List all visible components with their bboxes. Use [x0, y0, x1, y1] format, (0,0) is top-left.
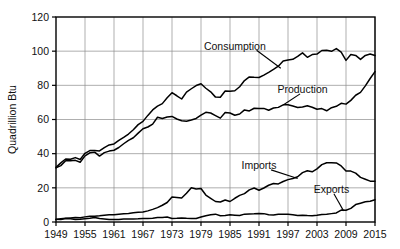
x-tick-label: 1967 [131, 228, 155, 240]
leader-line-imports [271, 170, 298, 179]
x-tick-label: 2009 [334, 228, 358, 240]
y-tick-label: 0 [43, 216, 49, 228]
series-annotation-production: Production [277, 83, 327, 95]
x-tick-label: 1961 [102, 228, 126, 240]
series-line-consumption [56, 49, 375, 168]
series-annotation-consumption: Consumption [204, 40, 266, 52]
chart-canvas: 0204060801001201949195519611967197319791… [0, 0, 400, 249]
x-tick-label: 1979 [189, 228, 213, 240]
y-axis-title: Quadrillion Btu [6, 85, 18, 154]
x-tick-label: 1985 [218, 228, 242, 240]
x-tick-label: 1997 [276, 228, 300, 240]
y-tick-label: 120 [31, 11, 49, 23]
x-tick-label: 1955 [73, 228, 97, 240]
series-annotation-exports: Exports [314, 183, 350, 195]
energy-overview-chart: 0204060801001201949195519611967197319791… [0, 0, 400, 249]
y-tick-label: 40 [37, 147, 49, 159]
leader-line-production [283, 94, 300, 105]
x-tick-label: 1973 [160, 228, 184, 240]
x-tick-label: 1949 [44, 228, 68, 240]
series-line-exports [56, 200, 375, 220]
leader-line-consumption [257, 50, 281, 68]
y-tick-label: 60 [37, 113, 49, 125]
leader-line-exports [334, 194, 344, 211]
x-tick-label: 1991 [247, 228, 271, 240]
x-tick-label: 2015 [363, 228, 387, 240]
y-tick-label: 100 [31, 45, 49, 57]
x-tick-label: 2003 [305, 228, 329, 240]
y-tick-label: 20 [37, 182, 49, 194]
y-tick-label: 80 [37, 79, 49, 91]
